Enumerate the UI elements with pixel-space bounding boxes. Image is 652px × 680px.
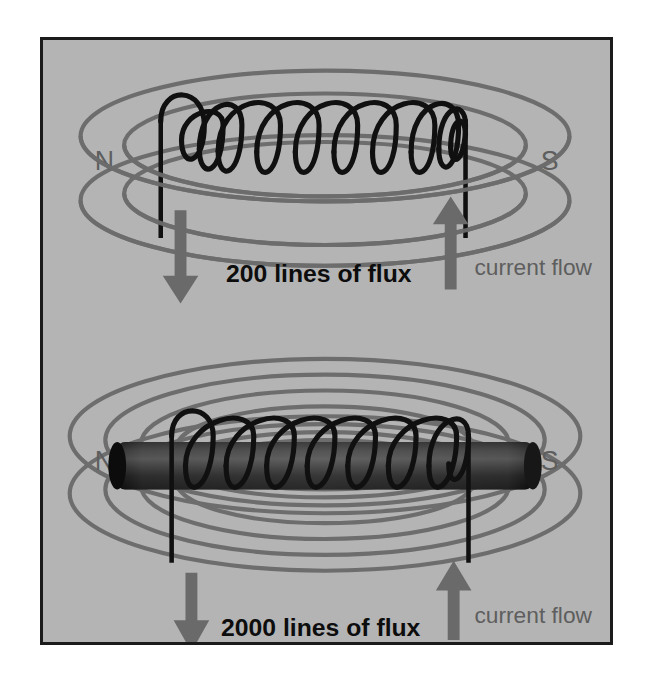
figure-root: N S [0,0,652,680]
current-flow-label-air: current flow [474,254,592,280]
flux-label-air: 200 lines of flux [226,260,412,287]
flux-label-iron: 2000 lines of flux [221,614,421,641]
south-pole-label-iron: S [541,446,559,476]
flux-loops-above-iron [70,359,581,513]
flux-loops-below-iron [70,416,581,570]
panel-air-core: N S [81,71,593,304]
current-arrow-left-iron [174,573,210,642]
current-flow-label-iron: current flow [474,602,592,628]
diagram-frame: N S [40,37,613,645]
panel-iron-core: N S [70,359,593,642]
current-arrow-right-air [433,196,469,289]
current-arrow-right-iron [436,561,472,640]
electromagnet-diagram: N S [43,40,610,642]
